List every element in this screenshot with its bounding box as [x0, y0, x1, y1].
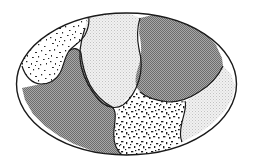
- figure-container: [0, 0, 254, 166]
- grain-region-diagram: [0, 0, 254, 166]
